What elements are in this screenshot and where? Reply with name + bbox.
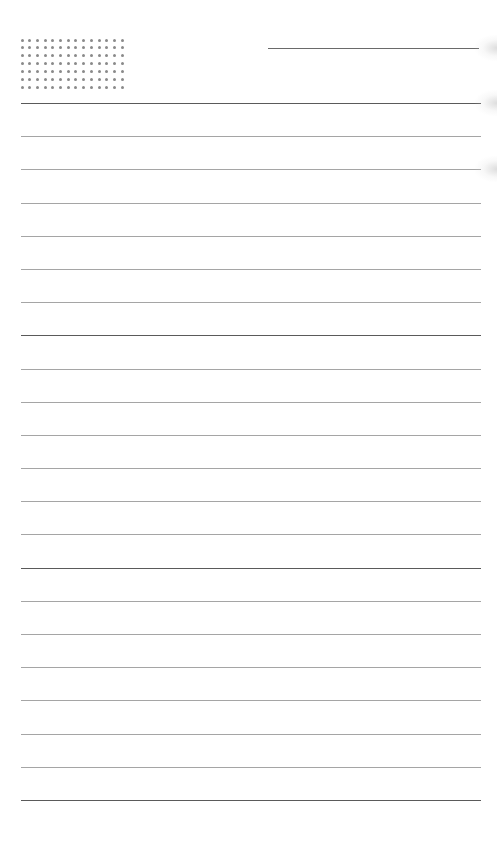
grid-dot xyxy=(44,62,47,65)
grid-dot xyxy=(51,78,54,81)
grid-dot xyxy=(21,54,24,57)
grid-dot xyxy=(28,39,31,42)
grid-dot xyxy=(51,46,54,49)
grid-dot xyxy=(105,54,108,57)
grid-dot xyxy=(82,86,85,89)
ruled-line xyxy=(21,435,481,436)
grid-dot xyxy=(36,70,39,73)
grid-dot xyxy=(90,39,93,42)
grid-dot xyxy=(74,70,77,73)
ruled-line xyxy=(21,203,481,204)
grid-dot xyxy=(59,39,62,42)
grid-dot xyxy=(51,39,54,42)
ruled-line xyxy=(21,468,481,469)
grid-dot xyxy=(59,70,62,73)
grid-dot xyxy=(121,39,124,42)
grid-dot xyxy=(44,46,47,49)
grid-dot xyxy=(51,54,54,57)
ruled-line xyxy=(21,700,481,701)
grid-dot xyxy=(98,54,101,57)
grid-dot xyxy=(21,70,24,73)
ruled-line xyxy=(21,402,481,403)
grid-dot xyxy=(113,54,116,57)
grid-dot xyxy=(105,70,108,73)
ruled-line xyxy=(21,369,481,370)
grid-dot xyxy=(121,54,124,57)
grid-dot xyxy=(82,46,85,49)
grid-dot xyxy=(21,39,24,42)
grid-dot xyxy=(121,86,124,89)
grid-dot xyxy=(105,86,108,89)
ruled-line xyxy=(21,534,481,535)
grid-dot xyxy=(74,86,77,89)
grid-dot xyxy=(21,46,24,49)
grid-dot xyxy=(36,86,39,89)
grid-dot xyxy=(59,78,62,81)
grid-dot xyxy=(90,86,93,89)
grid-dot xyxy=(67,86,70,89)
grid-dot xyxy=(90,46,93,49)
ruled-line xyxy=(21,501,481,502)
grid-dot xyxy=(113,78,116,81)
grid-dot xyxy=(28,46,31,49)
grid-dot xyxy=(44,70,47,73)
grid-dot xyxy=(21,78,24,81)
grid-dot xyxy=(90,54,93,57)
grid-dot xyxy=(74,39,77,42)
ruled-line xyxy=(21,136,481,137)
grid-dot xyxy=(44,54,47,57)
grid-dot xyxy=(67,46,70,49)
grid-dot xyxy=(67,39,70,42)
ruled-line xyxy=(21,634,481,635)
grid-dot xyxy=(67,54,70,57)
grid-dot xyxy=(44,78,47,81)
grid-dot xyxy=(98,39,101,42)
ruled-line-major xyxy=(21,335,481,336)
grid-dot xyxy=(90,62,93,65)
grid-dot xyxy=(67,62,70,65)
grid-dot xyxy=(28,54,31,57)
grid-dot xyxy=(28,70,31,73)
grid-dot xyxy=(51,70,54,73)
grid-dot xyxy=(82,78,85,81)
grid-dot xyxy=(74,46,77,49)
grid-dot xyxy=(36,54,39,57)
ruled-line xyxy=(21,667,481,668)
grid-dot xyxy=(44,39,47,42)
grid-dot xyxy=(121,62,124,65)
ruled-line xyxy=(21,601,481,602)
grid-dot xyxy=(51,86,54,89)
grid-dot xyxy=(113,70,116,73)
dot-grid-decoration xyxy=(0,0,497,120)
notebook-page xyxy=(0,0,497,851)
grid-dot xyxy=(67,70,70,73)
grid-dot xyxy=(82,54,85,57)
header-date-line xyxy=(268,48,479,49)
ruled-line-major xyxy=(21,800,481,801)
grid-dot xyxy=(113,86,116,89)
grid-dot xyxy=(90,78,93,81)
grid-dot xyxy=(121,70,124,73)
grid-dot xyxy=(21,62,24,65)
grid-dot xyxy=(74,62,77,65)
grid-dot xyxy=(98,78,101,81)
ruled-line-major xyxy=(21,568,481,569)
grid-dot xyxy=(36,62,39,65)
ruled-line xyxy=(21,734,481,735)
grid-dot xyxy=(82,70,85,73)
grid-dot xyxy=(113,62,116,65)
ruled-line xyxy=(21,302,481,303)
grid-dot xyxy=(98,86,101,89)
grid-dot xyxy=(113,39,116,42)
grid-dot xyxy=(82,39,85,42)
grid-dot xyxy=(98,62,101,65)
grid-dot xyxy=(36,46,39,49)
grid-dot xyxy=(59,54,62,57)
grid-dot xyxy=(113,46,116,49)
grid-dot xyxy=(36,78,39,81)
grid-dot xyxy=(121,46,124,49)
grid-dot xyxy=(105,39,108,42)
ruled-line xyxy=(21,767,481,768)
ruled-line-major xyxy=(21,103,481,104)
grid-dot xyxy=(59,62,62,65)
